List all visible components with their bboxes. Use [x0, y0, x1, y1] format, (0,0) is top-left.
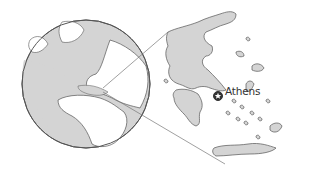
globe [22, 20, 150, 148]
greece-inset [164, 12, 282, 156]
capital-star-icon [214, 92, 223, 101]
locator-map [0, 0, 315, 169]
city-label-athens: Athens [225, 85, 260, 97]
